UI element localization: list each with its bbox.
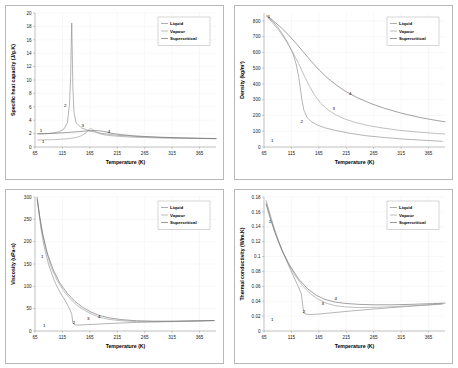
y-tick-label: 14 bbox=[26, 51, 32, 56]
y-tick-label: 0.02 bbox=[252, 314, 261, 319]
x-tick-label: 265 bbox=[370, 335, 378, 340]
legend: LiquidVapourSupercritical bbox=[387, 17, 439, 46]
legend: LiquidVapourSupercritical bbox=[158, 201, 210, 230]
curve-annotation-2: 2 bbox=[303, 309, 306, 314]
y-tick-label: 150 bbox=[24, 262, 32, 267]
y-axis-label: Thermal conductivity (W/m.K) bbox=[239, 227, 245, 300]
y-tick-label: 2 bbox=[29, 131, 32, 136]
x-axis-label: Temperature (K) bbox=[335, 343, 375, 349]
curve-annotation-3: 3 bbox=[332, 106, 335, 111]
y-axis-label: Viscosity (uPa-s) bbox=[10, 243, 16, 285]
x-tick-label: 265 bbox=[141, 151, 149, 156]
x-tick-label: 365 bbox=[196, 335, 204, 340]
legend-label-liquid: Liquid bbox=[170, 21, 183, 26]
y-tick-label: 500 bbox=[253, 66, 261, 71]
legend-label-vapour: Vapour bbox=[399, 213, 414, 218]
y-tick-label: 18 bbox=[26, 24, 32, 29]
curve-annotation-4: 4 bbox=[349, 91, 352, 96]
chart-svg-density: 0100200300400500600700800651151652152653… bbox=[234, 5, 453, 180]
x-tick-label: 165 bbox=[86, 151, 94, 156]
y-tick-label: 200 bbox=[253, 113, 261, 118]
series-curve-supercritical bbox=[38, 131, 216, 139]
y-tick-label: 300 bbox=[253, 97, 261, 102]
y-tick-label: 600 bbox=[253, 50, 261, 55]
legend-label-vapour: Vapour bbox=[399, 29, 414, 34]
chart-svg-thermal-conductivity: 00.020.040.060.080.10.120.140.160.186511… bbox=[234, 189, 453, 364]
curve-annotation-2: 2 bbox=[64, 103, 67, 108]
legend: LiquidVapourSupercritical bbox=[387, 201, 439, 230]
x-tick-label: 65 bbox=[32, 151, 38, 156]
y-tick-label: 0 bbox=[29, 145, 32, 150]
y-tick-label: 0 bbox=[258, 145, 261, 150]
legend-label-supercritical: Supercritical bbox=[399, 220, 426, 225]
panel-thermal-conductivity: 00.020.040.060.080.10.120.140.160.186511… bbox=[229, 184, 458, 368]
y-tick-label: 0 bbox=[258, 329, 261, 334]
x-tick-label: 365 bbox=[196, 151, 204, 156]
y-axis-label: Density (kg/m³) bbox=[239, 61, 245, 99]
y-tick-label: 0 bbox=[29, 329, 32, 334]
y-tick-label: 0.04 bbox=[252, 299, 261, 304]
x-axis-label: Temperature (K) bbox=[335, 159, 375, 165]
plot-area-thermal-conductivity: 00.020.040.060.080.10.120.140.160.186511… bbox=[234, 189, 453, 364]
legend-label-liquid: Liquid bbox=[399, 205, 412, 210]
y-tick-label: 0.16 bbox=[252, 210, 261, 215]
x-tick-label: 215 bbox=[342, 335, 350, 340]
x-tick-label: 65 bbox=[32, 335, 38, 340]
curve-annotation-4: 4 bbox=[98, 314, 101, 319]
y-tick-label: 250 bbox=[24, 217, 32, 222]
plot-area-viscosity: 05010015020025030065115165215265315365Te… bbox=[5, 189, 224, 364]
curve-annotation-1: 1 bbox=[40, 128, 43, 133]
curve-annotation-2: 2 bbox=[73, 320, 76, 325]
x-tick-label: 315 bbox=[168, 151, 176, 156]
plot-area-specific-heat-capacity: 0246810121416182065115165215265315365Tem… bbox=[5, 5, 224, 180]
y-tick-label: 0.12 bbox=[252, 239, 261, 244]
y-tick-label: 6 bbox=[29, 105, 32, 110]
plot-area-density: 0100200300400500600700800651151652152653… bbox=[234, 5, 453, 180]
x-tick-label: 165 bbox=[315, 335, 323, 340]
curve-annotation-1: 1 bbox=[271, 317, 274, 322]
curve-annotation-1: 1 bbox=[41, 254, 44, 259]
x-tick-label: 165 bbox=[86, 335, 94, 340]
y-tick-label: 200 bbox=[24, 239, 32, 244]
legend-label-liquid: Liquid bbox=[170, 205, 183, 210]
y-tick-label: 100 bbox=[253, 129, 261, 134]
chart-svg-specific-heat-capacity: 0246810121416182065115165215265315365Tem… bbox=[5, 5, 224, 180]
x-tick-label: 265 bbox=[141, 335, 149, 340]
chart-svg-viscosity: 05010015020025030065115165215265315365Te… bbox=[5, 189, 224, 364]
curve-annotation-1: 1 bbox=[43, 323, 46, 328]
y-tick-label: 12 bbox=[26, 64, 32, 69]
legend-label-vapour: Vapour bbox=[170, 29, 185, 34]
x-tick-label: 215 bbox=[342, 151, 350, 156]
x-tick-label: 115 bbox=[59, 335, 67, 340]
legend-label-supercritical: Supercritical bbox=[170, 36, 197, 41]
y-tick-label: 0.18 bbox=[252, 195, 261, 200]
x-tick-label: 315 bbox=[397, 335, 405, 340]
y-tick-label: 400 bbox=[253, 82, 261, 87]
y-tick-label: 0.1 bbox=[254, 254, 261, 259]
x-tick-label: 115 bbox=[288, 151, 296, 156]
y-tick-label: 800 bbox=[253, 19, 261, 24]
legend-label-vapour: Vapour bbox=[170, 213, 185, 218]
x-tick-label: 215 bbox=[113, 335, 121, 340]
x-tick-label: 365 bbox=[425, 151, 433, 156]
x-tick-label: 315 bbox=[168, 335, 176, 340]
curve-annotation-2: 2 bbox=[301, 119, 304, 124]
legend-label-supercritical: Supercritical bbox=[399, 36, 426, 41]
panel-specific-heat-capacity: 0246810121416182065115165215265315365Tem… bbox=[0, 0, 229, 184]
legend-label-supercritical: Supercritical bbox=[170, 220, 197, 225]
curve-annotation-3: 3 bbox=[87, 316, 90, 321]
figure-grid: 0246810121416182065115165215265315365Tem… bbox=[0, 0, 458, 368]
y-tick-label: 50 bbox=[26, 306, 32, 311]
y-tick-label: 8 bbox=[29, 91, 32, 96]
legend: LiquidVapourSupercritical bbox=[158, 17, 210, 46]
panel-viscosity: 05010015020025030065115165215265315365Te… bbox=[0, 184, 229, 368]
y-axis-label: Specific heat capacity (J/g.K) bbox=[10, 44, 16, 116]
x-tick-label: 315 bbox=[397, 151, 405, 156]
x-axis-label: Temperature (K) bbox=[106, 159, 146, 165]
y-tick-label: 4 bbox=[29, 118, 32, 123]
y-tick-label: 10 bbox=[26, 78, 32, 83]
x-tick-label: 65 bbox=[261, 335, 267, 340]
legend-label-liquid: Liquid bbox=[399, 21, 412, 26]
x-tick-label: 65 bbox=[261, 151, 267, 156]
x-tick-label: 265 bbox=[370, 151, 378, 156]
